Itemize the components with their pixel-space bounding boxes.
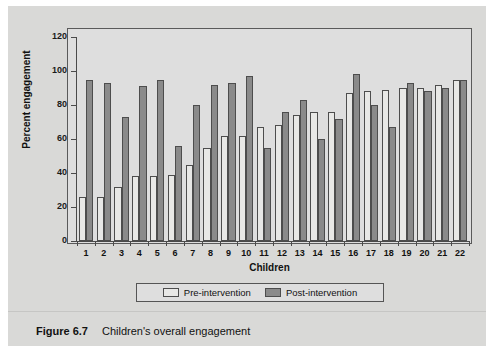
x-axis-tick-label: 21 bbox=[433, 248, 451, 258]
x-axis-tick-label: 22 bbox=[451, 248, 469, 258]
bar-pre-intervention bbox=[79, 197, 86, 241]
legend-item-pre-intervention: Pre-intervention bbox=[163, 287, 251, 298]
x-axis-tick bbox=[237, 241, 238, 246]
x-axis-tick bbox=[433, 241, 434, 246]
x-axis-tick-label: 14 bbox=[309, 248, 327, 258]
x-axis-tick-label: 19 bbox=[398, 248, 416, 258]
y-axis-tick-label: 100 bbox=[41, 66, 67, 75]
bar-group bbox=[433, 37, 451, 241]
bar-pre-intervention bbox=[275, 125, 282, 241]
caption-text: Children's overall engagement bbox=[102, 325, 250, 337]
x-axis-tick bbox=[273, 241, 274, 246]
x-axis-tick bbox=[398, 241, 399, 246]
bar-pre-intervention bbox=[364, 91, 371, 241]
bar-pre-intervention bbox=[221, 136, 228, 241]
plot-area bbox=[77, 37, 469, 241]
bar-post-intervention bbox=[264, 148, 271, 242]
bar-group bbox=[255, 37, 273, 241]
bar-pre-intervention bbox=[114, 187, 121, 241]
x-axis-tick-label: 12 bbox=[273, 248, 291, 258]
bar-group bbox=[77, 37, 95, 241]
bar-group bbox=[380, 37, 398, 241]
legend-item-post-intervention: Post-intervention bbox=[265, 287, 357, 298]
bar-pre-intervention bbox=[310, 112, 317, 241]
y-axis-tick-label: 40 bbox=[41, 168, 67, 177]
bar-group bbox=[237, 37, 255, 241]
x-axis-tick-label: 20 bbox=[416, 248, 434, 258]
bar-group bbox=[326, 37, 344, 241]
x-axis-tick bbox=[380, 241, 381, 246]
bar-group bbox=[451, 37, 469, 241]
x-axis-tick-label: 18 bbox=[380, 248, 398, 258]
y-axis-title: Percent engagement bbox=[21, 35, 32, 165]
bar-post-intervention bbox=[335, 119, 342, 241]
x-axis-tick bbox=[220, 241, 221, 246]
chart-legend: Pre-intervention Post-intervention bbox=[136, 283, 384, 302]
bar-post-intervention bbox=[122, 117, 129, 241]
x-axis-tick bbox=[148, 241, 149, 246]
legend-label-post-intervention: Post-intervention bbox=[286, 287, 357, 298]
bar-post-intervention bbox=[318, 139, 325, 241]
y-axis-tick-label: 60 bbox=[41, 134, 67, 143]
x-axis-tick bbox=[166, 241, 167, 246]
bar-pre-intervention bbox=[186, 165, 193, 242]
x-axis-tick-label: 6 bbox=[166, 248, 184, 258]
x-axis-tick bbox=[255, 241, 256, 246]
y-axis-tick-label: 120 bbox=[41, 32, 67, 41]
x-axis-tick bbox=[451, 241, 452, 246]
x-axis-tick-label: 10 bbox=[237, 248, 255, 258]
bar-post-intervention bbox=[353, 74, 360, 241]
bar-post-intervention bbox=[300, 100, 307, 241]
bar-group bbox=[362, 37, 380, 241]
figure-caption: Figure 6.7 Children's overall engagement bbox=[8, 315, 486, 346]
x-axis-tick bbox=[77, 241, 78, 246]
bar-post-intervention bbox=[86, 80, 93, 242]
bar-group bbox=[398, 37, 416, 241]
bar-pre-intervention bbox=[150, 176, 157, 241]
bar-post-intervention bbox=[193, 105, 200, 241]
bar-group bbox=[273, 37, 291, 241]
x-axis-tick-label: 15 bbox=[326, 248, 344, 258]
bar-post-intervention bbox=[371, 105, 378, 241]
bar-post-intervention bbox=[389, 127, 396, 241]
bar-pre-intervention bbox=[293, 115, 300, 241]
bar-post-intervention bbox=[460, 80, 467, 242]
x-axis-tick bbox=[362, 241, 363, 246]
bar-group bbox=[166, 37, 184, 241]
x-axis-tick-label: 16 bbox=[344, 248, 362, 258]
bar-pre-intervention bbox=[257, 127, 264, 241]
x-axis-tick bbox=[344, 241, 345, 246]
x-axis-tick bbox=[130, 241, 131, 246]
x-axis-tick-label: 1 bbox=[77, 248, 95, 258]
legend-swatch-pre-intervention bbox=[163, 288, 179, 297]
bar-group bbox=[416, 37, 434, 241]
x-axis-tick bbox=[326, 241, 327, 246]
x-axis-tick-label: 3 bbox=[113, 248, 131, 258]
x-axis-tick-label: 8 bbox=[202, 248, 220, 258]
x-axis-tick-label: 13 bbox=[291, 248, 309, 258]
x-axis-tick-label: 11 bbox=[255, 248, 273, 258]
x-axis-tick-label: 4 bbox=[130, 248, 148, 258]
x-axis-tick-label: 9 bbox=[220, 248, 238, 258]
y-axis-tick-label: 80 bbox=[41, 100, 67, 109]
bar-post-intervention bbox=[139, 86, 146, 241]
bar-pre-intervention bbox=[382, 90, 389, 241]
bar-post-intervention bbox=[157, 80, 164, 242]
bar-group bbox=[291, 37, 309, 241]
y-axis-tick-label: 0 bbox=[41, 236, 67, 245]
x-axis-title: Children bbox=[67, 262, 472, 273]
bar-post-intervention bbox=[104, 83, 111, 241]
bar-post-intervention bbox=[407, 83, 414, 241]
caption-number: Figure 6.7 bbox=[36, 325, 88, 337]
bar-group bbox=[220, 37, 238, 241]
bar-post-intervention bbox=[211, 85, 218, 241]
x-axis-tick bbox=[202, 241, 203, 246]
bar-pre-intervention bbox=[453, 80, 460, 242]
bar-group bbox=[113, 37, 131, 241]
x-axis-tick bbox=[184, 241, 185, 246]
bar-group bbox=[309, 37, 327, 241]
x-axis-tick bbox=[95, 241, 96, 246]
legend-swatch-post-intervention bbox=[265, 288, 281, 297]
x-axis-tick-label: 5 bbox=[148, 248, 166, 258]
bar-group bbox=[148, 37, 166, 241]
